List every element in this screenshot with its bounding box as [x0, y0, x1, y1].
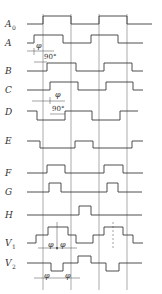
- phi-annotation: φ: [55, 90, 61, 99]
- label-A0: A: [4, 19, 12, 29]
- label-A: A: [4, 38, 12, 48]
- phi-annotation: φ: [36, 41, 42, 50]
- signal-C: C φ: [5, 82, 143, 104]
- label-E: E: [4, 136, 12, 146]
- deg90-annotation: 90°: [52, 105, 64, 113]
- phi-annotation: φ: [65, 271, 71, 280]
- signal-H: H: [4, 206, 142, 220]
- signal-F: F: [4, 165, 143, 178]
- label-G: G: [5, 187, 12, 197]
- signal-V2: V 2 φ φ: [5, 256, 142, 280]
- signal-B: B: [4, 63, 143, 76]
- label-V1-sub: 1: [12, 243, 16, 250]
- label-C: C: [5, 85, 12, 95]
- timing-diagram: A 0 A φ 90° B C φ D 90° E F: [0, 0, 162, 294]
- label-F: F: [4, 168, 12, 178]
- phi-annotation: φ: [60, 240, 66, 249]
- label-H: H: [4, 210, 13, 220]
- signal-V1: V 1 φ φ: [5, 222, 143, 250]
- label-V2-sub: 2: [12, 263, 16, 270]
- signal-A: A φ 90°: [4, 35, 143, 62]
- signal-E: E: [4, 136, 143, 148]
- signal-A0: A 0: [4, 16, 152, 31]
- deg90-annotation: 90°: [44, 53, 56, 61]
- label-B: B: [4, 66, 12, 76]
- label-A0-sub: 0: [12, 24, 16, 31]
- phi-annotation: φ: [48, 240, 54, 249]
- phi-annotation: φ: [44, 271, 50, 280]
- label-D: D: [4, 107, 12, 117]
- signal-G: G: [5, 183, 142, 197]
